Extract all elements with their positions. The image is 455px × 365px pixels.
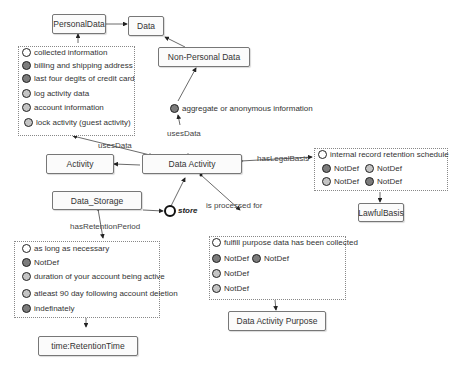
node-personal-data[interactable]: PersonalData	[52, 14, 106, 34]
instance-item[interactable]: NotDef	[22, 258, 59, 267]
node-lawful-basis[interactable]: LawfulBasis	[358, 203, 404, 222]
instance-item[interactable]: duration of your account being active	[22, 272, 165, 281]
instance-circle-icon	[365, 177, 374, 186]
instance-item[interactable]: lock activity (guest activity)	[24, 118, 131, 127]
instance-item[interactable]: NotDef	[365, 164, 402, 173]
instance-item[interactable]: NotDef	[212, 284, 249, 293]
store-label: store	[178, 206, 198, 215]
edge-label-is-processed-for: is processed for	[206, 201, 262, 210]
instance-circle-icon	[212, 238, 221, 247]
instance-circle-icon	[212, 254, 221, 263]
instance-circle-icon	[22, 103, 31, 112]
instance-circle-icon	[22, 89, 31, 98]
instance-circle-icon	[22, 244, 31, 253]
instance-item[interactable]: NotDef	[365, 177, 402, 186]
edge-label-uses-data: usesData	[98, 141, 132, 150]
instance-circle-icon	[170, 104, 179, 113]
instance-item[interactable]: as long as necessary	[22, 244, 109, 253]
instance-item[interactable]: billing and shipping address	[22, 61, 133, 70]
instance-item[interactable]: internal record retention schedule	[318, 150, 449, 159]
instance-circle-icon	[212, 269, 221, 278]
node-data-storage[interactable]: Data_Storage	[52, 191, 142, 210]
non-personal-instance[interactable]: aggregate or anonymous information	[170, 104, 313, 113]
node-non-personal-data[interactable]: Non-Personal Data	[158, 47, 250, 67]
instance-item[interactable]: last four degits of credit card	[22, 74, 135, 83]
instance-item[interactable]: log activity data	[22, 89, 89, 98]
edge-label-has-retention-period: hasRetentionPeriod	[70, 222, 140, 231]
instance-item[interactable]: collected information	[22, 48, 107, 57]
edge-label-uses-data-top: usesData	[167, 129, 201, 138]
instance-circle-icon	[365, 164, 374, 173]
store-instance-circle-icon[interactable]	[164, 205, 176, 217]
instance-item[interactable]: NotDef	[322, 164, 359, 173]
instance-item[interactable]: indefinately	[22, 304, 74, 313]
instance-circle-icon	[22, 61, 31, 70]
instance-circle-icon	[22, 304, 31, 313]
instance-circle-icon	[322, 164, 331, 173]
node-activity[interactable]: Activity	[46, 154, 114, 174]
instance-circle-icon	[22, 48, 31, 57]
instance-circle-icon	[322, 177, 331, 186]
node-retention-time[interactable]: time:RetentionTime	[38, 336, 138, 356]
instance-circle-icon	[22, 289, 31, 298]
instance-item[interactable]: NotDef	[252, 254, 289, 263]
instance-item[interactable]: account information	[22, 103, 104, 112]
instance-item[interactable]: NotDef	[212, 254, 249, 263]
node-data-activity-purpose[interactable]: Data Activity Purpose	[228, 311, 326, 331]
instance-circle-icon	[22, 272, 31, 281]
node-data-activity[interactable]: Data Activity	[142, 154, 242, 174]
edge-label-has-legal-basis: hasLegalBasis	[257, 154, 309, 163]
instance-item[interactable]: fulfill purpose data has been collected	[212, 238, 358, 247]
instance-item[interactable]: NotDef	[322, 177, 359, 186]
instance-circle-icon	[22, 258, 31, 267]
instance-circle-icon	[24, 118, 33, 127]
instance-item[interactable]: NotDef	[212, 269, 249, 278]
instance-circle-icon	[212, 284, 221, 293]
instance-circle-icon	[318, 150, 327, 159]
instance-item[interactable]: atleast 90 day following account deletio…	[22, 289, 178, 298]
instance-circle-icon	[252, 254, 261, 263]
instance-circle-icon	[22, 74, 31, 83]
node-data[interactable]: Data	[128, 16, 164, 36]
